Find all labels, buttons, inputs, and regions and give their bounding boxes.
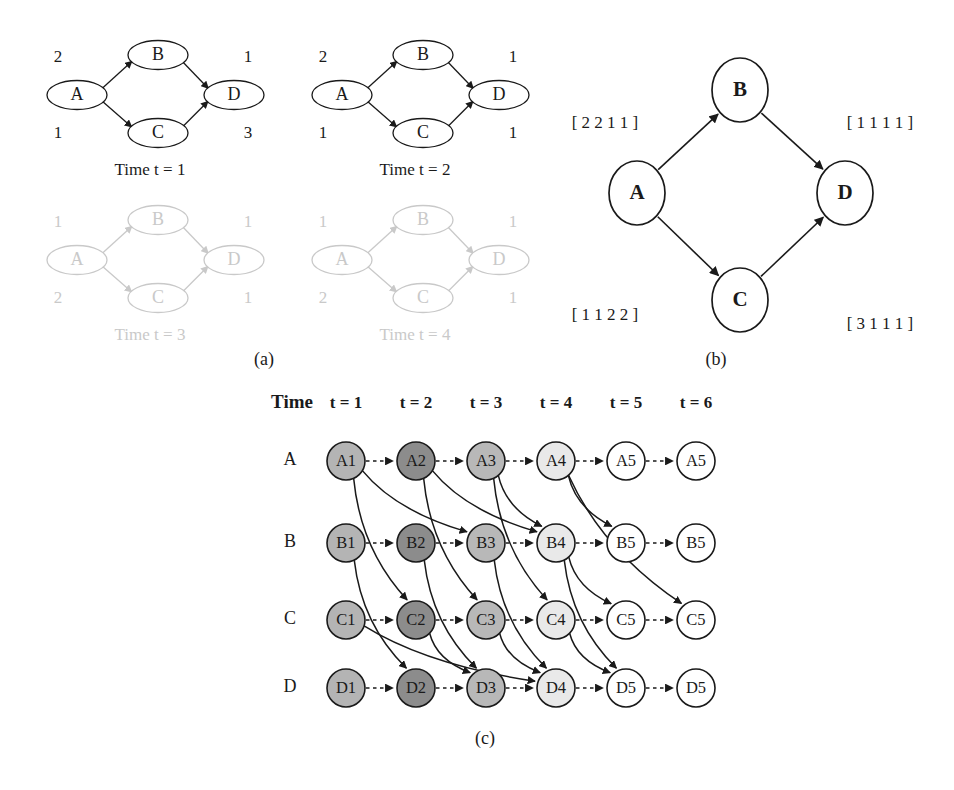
edge-c-d-weight-label: 1	[509, 288, 518, 307]
time-node-C1-label: C1	[336, 610, 355, 629]
time-header-label: Time	[271, 391, 313, 412]
time-node-B1-label: B1	[336, 533, 355, 552]
time-node-D4: D4	[537, 669, 575, 707]
edge-a-c	[366, 266, 396, 293]
edge-b-d-weight-label: 1	[244, 212, 253, 231]
edge-a-c-weight-label: 1	[319, 123, 328, 142]
edge-b-d-weight-label: 1	[509, 47, 518, 66]
node-b-label: B	[417, 209, 429, 229]
time-node-A2-label: A2	[406, 451, 426, 470]
node-d-label: D	[493, 249, 506, 269]
time-node-D5: D5	[677, 669, 715, 707]
row-label-d: D	[284, 676, 297, 696]
transit-edge-B4-C5	[569, 557, 611, 604]
node-a-label: A	[629, 180, 645, 204]
figure-svg: 2113ABCDTime t = 12111ABCDTime t = 21211…	[0, 0, 954, 790]
transit-edge-A3-B4	[498, 475, 541, 526]
time-node-D1-label: D1	[336, 678, 356, 697]
time-node-A1: A1	[327, 442, 365, 480]
panel-c: Timet = 1t = 2t = 3t = 4t = 5t = 6ABCDA1…	[271, 391, 715, 749]
edge-b-d	[761, 113, 822, 169]
node-c-label: C	[732, 287, 747, 311]
transit-edge-A4-B5	[568, 475, 611, 526]
time-node-A3-label: A3	[476, 451, 496, 470]
time-node-A4: A4	[537, 442, 575, 480]
caption-a: (a)	[254, 349, 274, 370]
time-node-A1-label: A1	[336, 451, 356, 470]
transit-edge-C3-D4	[500, 633, 541, 672]
node-b-label: B	[417, 44, 429, 64]
panel-b: ABCD[ 2 2 1 1 ][ 1 1 2 2 ][ 1 1 1 1 ][ 3…	[572, 58, 914, 370]
edge-b-d-weight-label: 1	[509, 212, 518, 231]
time-node-C5-label: C5	[686, 610, 705, 629]
snapshot-3: 1211ABCDTime t = 3	[47, 206, 264, 344]
time-column-header-3: t = 3	[470, 393, 502, 412]
transit-edge-layer	[354, 471, 682, 682]
edge-a-c-weight-label: 2	[319, 288, 328, 307]
node-c-label: C	[417, 122, 429, 142]
snapshot-time-caption: Time t = 2	[380, 160, 451, 179]
time-node-B1: B1	[327, 524, 365, 562]
edge-b-d-weight-label: 1	[244, 47, 253, 66]
time-node-C5: C5	[607, 601, 645, 639]
time-node-C2-label: C2	[406, 610, 425, 629]
time-node-A5-label: A5	[616, 451, 636, 470]
edge-a-b	[101, 226, 132, 254]
time-column-header-5: t = 5	[610, 393, 642, 412]
edge-c-d-vector-label: [ 3 1 1 1 ]	[847, 314, 914, 333]
edge-a-c	[366, 101, 396, 128]
edge-c-d	[182, 101, 208, 127]
time-node-C2: C2	[397, 601, 435, 639]
time-node-C3: C3	[467, 601, 505, 639]
edge-a-c	[658, 217, 719, 276]
caption-b: (b)	[706, 349, 727, 370]
edge-a-b-weight-label: 2	[319, 47, 328, 66]
edge-c-d-weight-label: 1	[244, 288, 253, 307]
row-label-c: C	[284, 608, 296, 628]
node-d-label: D	[493, 84, 506, 104]
time-node-C3-label: C3	[476, 610, 495, 629]
node-b-label: B	[152, 209, 164, 229]
time-node-A5: A5	[677, 442, 715, 480]
time-node-C5-label: C5	[616, 610, 635, 629]
edge-a-b	[101, 61, 132, 89]
node-b-label: B	[733, 77, 747, 101]
figure-container: 2113ABCDTime t = 12111ABCDTime t = 21211…	[0, 0, 954, 790]
edge-c-d	[182, 266, 208, 292]
time-node-B2-label: B2	[406, 533, 425, 552]
time-node-C4: C4	[537, 601, 575, 639]
time-node-D5-label: D5	[616, 678, 636, 697]
node-a-label: A	[336, 249, 349, 269]
time-node-B4-label: B4	[546, 533, 565, 552]
time-node-A4-label: A4	[546, 451, 566, 470]
row-label-b: B	[284, 531, 296, 551]
snapshot-1: 2113ABCDTime t = 1	[47, 41, 264, 179]
time-node-D3-label: D3	[476, 678, 496, 697]
time-node-A2: A2	[397, 442, 435, 480]
edge-a-c	[101, 266, 131, 293]
node-d-label: D	[228, 84, 241, 104]
edge-c-d	[761, 217, 823, 276]
node-c-label: C	[417, 287, 429, 307]
time-column-header-4: t = 4	[540, 393, 573, 412]
node-a-label: A	[71, 249, 84, 269]
node-c-label: C	[152, 122, 164, 142]
edge-a-b-weight-label: 1	[54, 212, 63, 231]
time-node-B2: B2	[397, 524, 435, 562]
time-node-B5: B5	[607, 524, 645, 562]
snapshot-time-caption: Time t = 1	[115, 160, 186, 179]
time-column-header-1: t = 1	[330, 393, 362, 412]
node-d-label: D	[228, 249, 241, 269]
time-column-header-6: t = 6	[680, 393, 712, 412]
edge-a-b	[366, 61, 397, 89]
time-node-D5-label: D5	[686, 678, 706, 697]
node-b-label: B	[152, 44, 164, 64]
node-c-label: C	[152, 287, 164, 307]
edge-c-d	[447, 266, 473, 292]
time-node-D5: D5	[607, 669, 645, 707]
edge-a-c	[101, 101, 131, 128]
time-node-B5-label: B5	[616, 533, 635, 552]
time-node-B3-label: B3	[476, 533, 495, 552]
time-node-B4: B4	[537, 524, 575, 562]
time-node-D2: D2	[397, 669, 435, 707]
